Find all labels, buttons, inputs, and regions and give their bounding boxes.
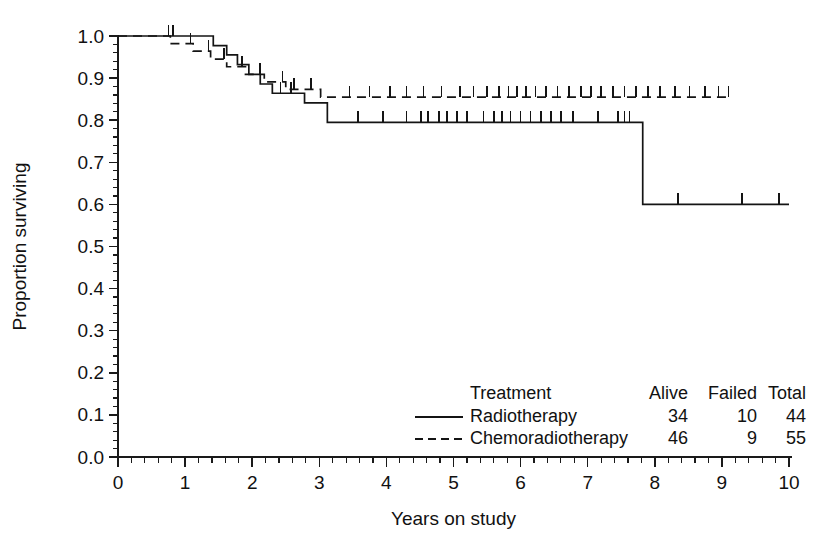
legend-value-total-1: 55 [786,428,806,448]
x-tick-label: 2 [247,472,258,493]
y-tick-label: 0.9 [78,68,104,89]
x-tick-label: 6 [515,472,526,493]
legend-value-alive-0: 34 [668,406,688,426]
x-tick-label: 7 [582,472,593,493]
x-tick-label: 3 [314,472,325,493]
censor-marks-layer [168,25,779,204]
legend-header-alive: Alive [649,383,688,403]
legend-value-failed-1: 9 [747,428,757,448]
plot-canvas: 0.00.10.20.30.40.50.60.70.80.91.0 012345… [0,0,816,542]
series-layer [118,36,789,204]
legend-value-failed-0: 10 [737,406,757,426]
legend-label-chemoradiotherapy: Chemoradiotherapy [470,428,628,448]
x-axis-ticks [118,457,789,467]
y-tick-label: 0.8 [78,110,104,131]
y-tick-label: 0.3 [78,320,104,341]
y-tick-label: 0.5 [78,236,104,257]
y-tick-label: 0.1 [78,404,104,425]
x-tick-label: 8 [650,472,661,493]
y-tick-label: 0.6 [78,194,104,215]
y-axis-title: Proportion surviving [9,163,30,331]
x-tick-label: 1 [180,472,191,493]
y-tick-label: 0.2 [78,362,104,383]
legend-value-alive-1: 46 [668,428,688,448]
legend-header-treatment: Treatment [470,383,551,403]
x-tick-label: 5 [448,472,459,493]
x-tick-label: 10 [778,472,799,493]
x-tick-label: 4 [381,472,392,493]
legend-header-failed: Failed [708,383,757,403]
chart-legend: TreatmentAliveFailedTotalRadiotherapy341… [415,383,806,448]
x-axis-tick-labels: 012345678910 [113,472,800,493]
y-tick-label: 0.7 [78,152,104,173]
legend-value-total-0: 44 [786,406,806,426]
series-line-radiotherapy [118,36,789,204]
legend-label-radiotherapy: Radiotherapy [470,406,577,426]
y-tick-label: 1.0 [78,26,104,47]
survival-chart-figure: 0.00.10.20.30.40.50.60.70.80.91.0 012345… [0,0,816,542]
x-tick-label: 9 [717,472,728,493]
y-tick-label: 0.4 [78,278,105,299]
x-tick-label: 0 [113,472,124,493]
legend-header-total: Total [768,383,806,403]
y-tick-label: 0.0 [78,447,104,468]
y-axis-ticks [109,36,118,457]
x-axis-title: Years on study [391,508,516,529]
y-axis-tick-labels: 0.00.10.20.30.40.50.60.70.80.91.0 [78,26,105,468]
